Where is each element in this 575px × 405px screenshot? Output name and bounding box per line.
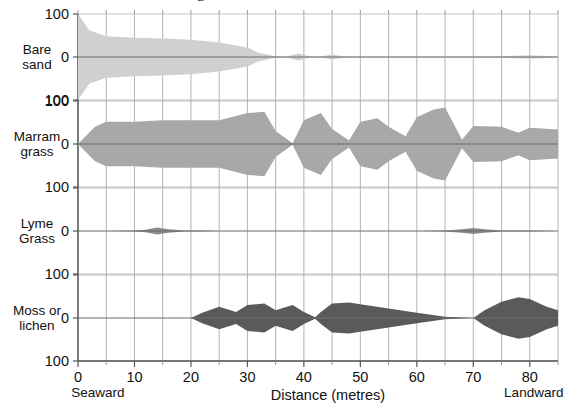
kite-diagram-svg: 1000100Baresand1000100Marramgrass0100Lym… — [0, 0, 575, 405]
kite-diagram-figure: g 1000100Baresand1000100Marramgrass0100L… — [0, 0, 575, 405]
x-tick-label: 10 — [126, 369, 142, 385]
y-tick-label: 0 — [61, 136, 69, 152]
y-tick-label: 0 — [61, 310, 69, 326]
landward-label: Landward — [504, 385, 563, 400]
x-tick-label: 50 — [352, 369, 368, 385]
seaward-label: Seaward — [71, 385, 124, 400]
y-tick-label: 100 — [45, 93, 69, 109]
y-tick-label: 100 — [45, 353, 69, 369]
x-tick-label: 30 — [239, 369, 255, 385]
y-tick-label: 100 — [45, 6, 69, 22]
x-tick-label: 0 — [74, 369, 82, 385]
row-label-line2: lichen — [19, 318, 54, 333]
row-label-marram-grass: Marramgrass — [14, 129, 61, 159]
y-tick-label: 100 — [45, 266, 69, 282]
row-label-line2: Grass — [19, 231, 55, 246]
y-tick-label: 0 — [61, 223, 69, 239]
row-label-lyme-grass: LymeGrass — [19, 216, 55, 246]
x-tick-label: 80 — [522, 369, 538, 385]
x-tick-label: 70 — [465, 369, 481, 385]
row-label-line2: grass — [20, 144, 53, 159]
x-tick-label: 60 — [409, 369, 425, 385]
x-tick-label: 40 — [296, 369, 312, 385]
x-tick-label: 20 — [183, 369, 199, 385]
row-label-moss-or-lichen: Moss orlichen — [13, 303, 62, 333]
row-label-line2: sand — [22, 57, 51, 72]
row-label-line1: Bare — [23, 42, 52, 57]
y-tick-label: 100 — [45, 179, 69, 195]
row-label-line1: Marram — [14, 129, 61, 144]
row-label-bare-sand: Baresand — [22, 42, 51, 72]
row-label-line1: Lyme — [21, 216, 54, 231]
row-label-line1: Moss or — [13, 303, 62, 318]
x-axis-title: Distance (metres) — [271, 387, 385, 403]
y-tick-label: 0 — [61, 49, 69, 65]
